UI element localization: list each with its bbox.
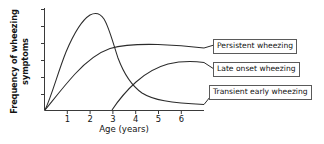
x-tick-label-1: 1 (61, 114, 73, 124)
legend-item-transient-early-wheezing: Transient early wheezing (209, 85, 312, 100)
x-tick-label-6: 6 (175, 114, 187, 124)
x-tick-label-5: 5 (153, 114, 165, 124)
x-axis-label: Age (years) (44, 124, 204, 134)
curve-persistent-wheezing (45, 44, 204, 110)
legend-item-late-onset-wheezing: Late onset wheezing (213, 62, 300, 77)
legend-item-persistent-wheezing: Persistent wheezing (213, 39, 297, 54)
curve-late-onset-wheezing (112, 62, 204, 110)
x-tick-label-3: 3 (107, 114, 119, 124)
wheezing-phenotypes-chart: Frequency of wheezing symptoms (0, 0, 324, 144)
x-tick-label-4: 4 (130, 114, 142, 124)
x-tick-label-2: 2 (84, 114, 96, 124)
